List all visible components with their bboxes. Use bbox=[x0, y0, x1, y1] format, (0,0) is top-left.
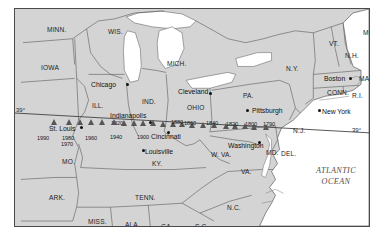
population-center-marker bbox=[242, 123, 248, 129]
great-lakes bbox=[123, 11, 271, 88]
population-center-marker bbox=[160, 121, 166, 127]
geography-layer bbox=[15, 9, 369, 226]
map-frame: 39° 39° ATLANTIC OCEAN MINN.WIS.IOWAMICH… bbox=[14, 8, 370, 227]
population-center-map: 39° 39° ATLANTIC OCEAN MINN.WIS.IOWAMICH… bbox=[0, 0, 384, 247]
population-center-marker bbox=[232, 123, 238, 129]
population-center-marker bbox=[140, 120, 146, 126]
population-center-marker bbox=[189, 122, 195, 128]
population-center-marker bbox=[200, 122, 206, 128]
population-center-marker bbox=[150, 120, 156, 126]
population-center-marker bbox=[131, 120, 137, 126]
population-center-marker bbox=[88, 119, 94, 125]
population-center-marker bbox=[66, 119, 72, 125]
population-center-marker bbox=[121, 120, 127, 126]
population-center-marker bbox=[99, 119, 105, 125]
population-center-marker bbox=[170, 121, 176, 127]
population-center-marker bbox=[223, 123, 229, 129]
population-center-marker bbox=[263, 124, 269, 130]
population-center-marker bbox=[211, 122, 217, 128]
population-center-marker bbox=[179, 121, 185, 127]
chesapeake-bay bbox=[262, 134, 272, 178]
population-center-marker bbox=[111, 119, 117, 125]
atlantic-coastline bbox=[260, 9, 369, 226]
population-center-marker bbox=[251, 124, 257, 130]
population-center-marker bbox=[51, 119, 57, 125]
population-center-marker bbox=[77, 119, 83, 125]
